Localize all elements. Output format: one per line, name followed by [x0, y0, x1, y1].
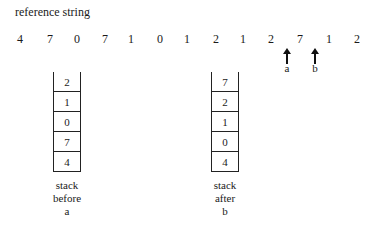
reference-item: 2 — [209, 32, 223, 47]
reference-item: 7 — [43, 32, 57, 47]
stack-cell: 7 — [54, 132, 80, 152]
stack-cell: 0 — [212, 132, 238, 152]
stack-cell: 2 — [54, 72, 80, 92]
stack-cell: 4 — [54, 152, 80, 172]
stack-cell: 0 — [54, 112, 80, 132]
reference-string-title: reference string — [15, 5, 90, 20]
reference-item: 2 — [264, 32, 278, 47]
reference-item: 2 — [350, 32, 364, 47]
reference-item: 4 — [13, 32, 27, 47]
stack-after-b: 7 2 1 0 4 — [211, 72, 239, 172]
arrow-label-a: a — [282, 62, 292, 74]
reference-item: 1 — [124, 32, 138, 47]
stack-before-a: 2 1 0 7 4 — [53, 72, 81, 172]
stack-cell: 1 — [54, 92, 80, 112]
stack-cell: 1 — [212, 112, 238, 132]
stack-cell: 7 — [212, 72, 238, 92]
reference-item: 1 — [322, 32, 336, 47]
reference-item: 0 — [153, 32, 167, 47]
stack-cell: 2 — [212, 92, 238, 112]
reference-item: 7 — [98, 32, 112, 47]
stack-cell: 4 — [212, 152, 238, 172]
reference-item: 1 — [236, 32, 250, 47]
reference-item: 0 — [70, 32, 84, 47]
arrow-label-b: b — [310, 62, 320, 74]
stack-before-a-caption: stack before a — [42, 179, 92, 218]
reference-item: 1 — [180, 32, 194, 47]
stack-after-b-caption: stack after b — [200, 179, 250, 218]
reference-item: 7 — [293, 32, 307, 47]
